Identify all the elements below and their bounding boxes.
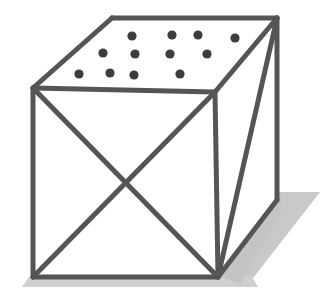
dot: [230, 33, 239, 42]
dot: [105, 68, 114, 77]
dot: [167, 30, 176, 39]
dot: [127, 31, 136, 40]
dot: [202, 49, 211, 58]
edge-front-right: [215, 92, 218, 277]
dot: [74, 69, 83, 78]
dot: [193, 30, 202, 39]
figure-canvas: Wire-frame cube with dotted top face: [0, 0, 329, 294]
dot: [129, 70, 138, 79]
dot: [130, 49, 139, 58]
dot: [98, 48, 107, 57]
cube-illustration: [0, 0, 329, 294]
dot: [175, 69, 184, 78]
dot: [165, 49, 174, 58]
